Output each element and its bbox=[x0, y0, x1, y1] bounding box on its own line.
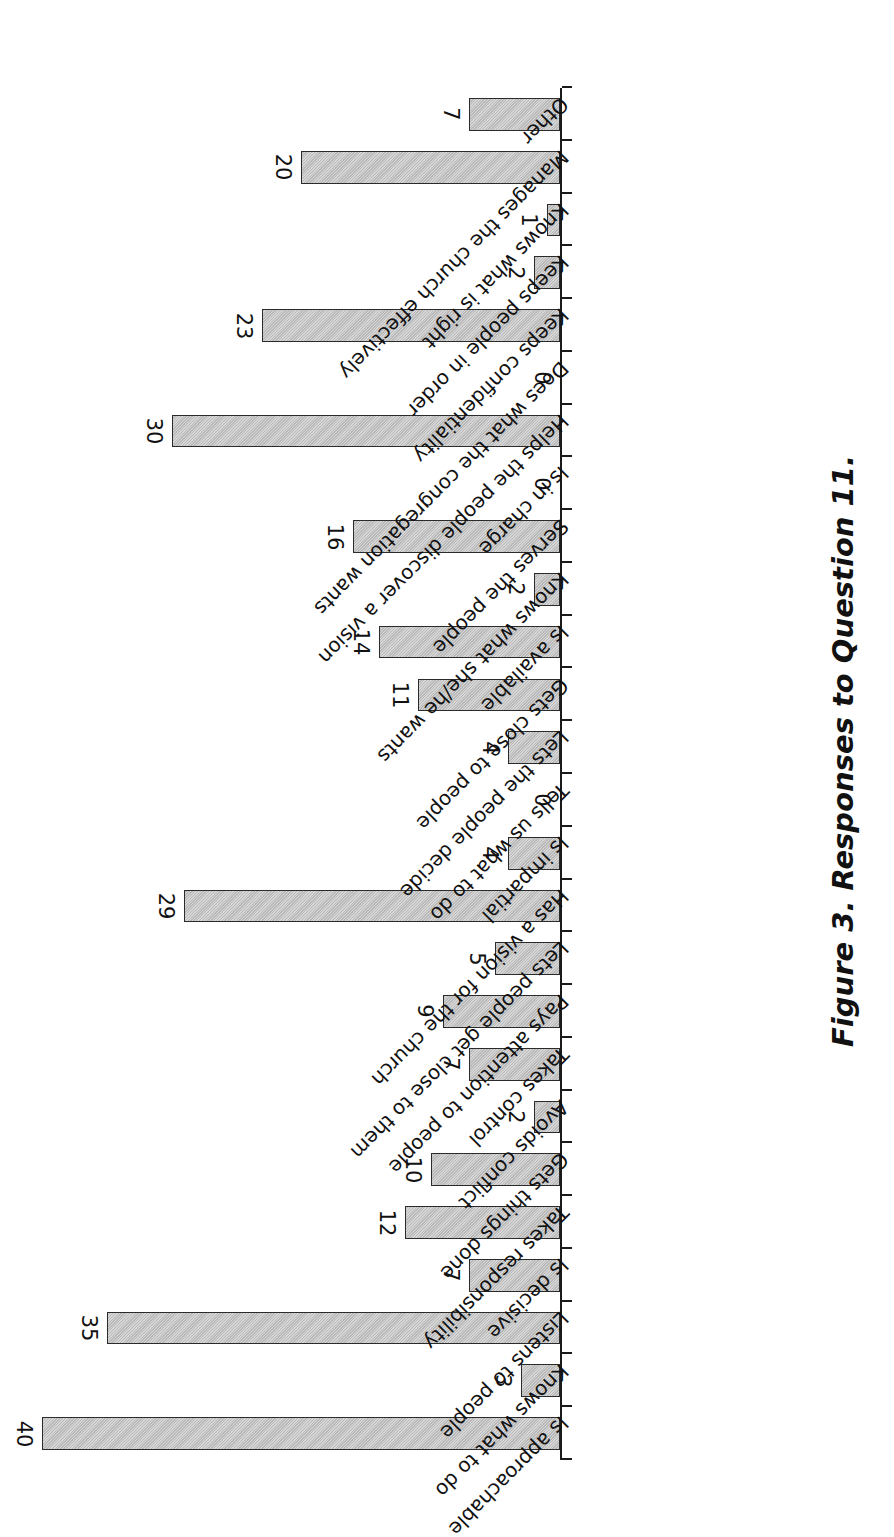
bar-value-label: 11 bbox=[389, 682, 410, 709]
bar-value-label: 35 bbox=[78, 1315, 99, 1342]
bar-value-label: 16 bbox=[324, 523, 345, 550]
figure-caption-holder: Figure 3. Responses to Question 11. bbox=[826, 0, 886, 1502]
bar-value-label: 12 bbox=[376, 1209, 397, 1236]
bar-value-label: 40 bbox=[13, 1420, 34, 1447]
bar-value-label: 20 bbox=[272, 154, 293, 181]
bar-value-label: 29 bbox=[155, 893, 176, 920]
bar-value-label: 7 bbox=[440, 108, 461, 121]
figure-caption: Figure 3. Responses to Question 11. bbox=[826, 0, 860, 1502]
bar-value-label: 23 bbox=[233, 312, 254, 339]
bar-value-label: 30 bbox=[143, 418, 164, 445]
bar-slot: 20 bbox=[42, 141, 560, 194]
bar bbox=[301, 151, 560, 184]
bar-slot: 35 bbox=[42, 1302, 560, 1355]
bar-slot: 7 bbox=[42, 88, 560, 141]
